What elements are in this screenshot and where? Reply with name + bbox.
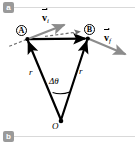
dashed-tangent-extension — [9, 39, 27, 46]
panel-tag-b: b — [3, 131, 14, 142]
vector-arrow-accent-final: v — [104, 32, 109, 43]
label-velocity-initial: vi — [42, 12, 49, 25]
vertex-dot-a — [25, 37, 29, 41]
panel-rule-bottom — [14, 136, 135, 137]
label-velocity-final: vf — [104, 32, 111, 45]
vector-arrow-accent-initial: v — [42, 12, 47, 23]
label-velocity-final-subscript: f — [109, 37, 111, 45]
dashed-translated-velocity — [45, 32, 81, 37]
physics-figure-circular-motion: a b A B vi vf r r Δθ O — [0, 0, 135, 145]
vertex-dot-b — [86, 37, 90, 41]
label-delta-theta: Δθ — [49, 76, 59, 86]
label-radius-left: r — [29, 67, 33, 77]
angle-arc-delta-theta — [53, 92, 70, 94]
label-velocity-initial-subscript: i — [47, 17, 49, 25]
radius-line-right — [61, 41, 87, 120]
label-velocity-initial-symbol: v — [42, 12, 47, 23]
velocity-vector-initial — [28, 25, 65, 39]
panel-rule-top — [14, 7, 135, 8]
node-label-a: A — [16, 25, 27, 36]
panel-tag-a: a — [3, 2, 14, 13]
node-label-b: B — [84, 24, 95, 35]
label-origin-o: O — [52, 121, 59, 131]
label-radius-right: r — [79, 66, 83, 76]
vector-diagram-svg — [0, 0, 135, 145]
chord-arrow-a-to-b — [28, 39, 86, 40]
vertex-dot-o — [59, 119, 64, 124]
label-velocity-final-symbol: v — [104, 32, 109, 43]
